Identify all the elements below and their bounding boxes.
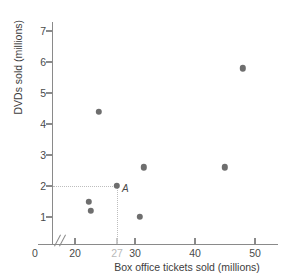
data-point-2 xyxy=(87,208,93,214)
y-tick-label-2: 2 xyxy=(26,181,46,192)
origin-label: 0 xyxy=(25,248,45,259)
x-tick-mark xyxy=(134,238,135,244)
guide-line-vertical xyxy=(117,186,118,243)
y-tick-label-6: 6 xyxy=(26,57,46,68)
y-tick-label-1: 1 xyxy=(26,212,46,223)
y-axis-title: DVDs sold (millions) xyxy=(13,0,24,137)
y-tick-mark xyxy=(46,185,52,186)
data-point-7 xyxy=(240,65,246,71)
data-point-0 xyxy=(96,108,102,114)
x-tick-mark xyxy=(194,238,195,244)
y-tick-mark xyxy=(46,92,52,93)
y-tick-mark xyxy=(46,216,52,217)
x-axis-title: Box office tickets sold (millions) xyxy=(92,262,282,273)
y-tick-label-3: 3 xyxy=(26,150,46,161)
x-tick-mark xyxy=(74,238,75,244)
scatter-plot: 0 7654321 2027304050 A DVDs sold (millio… xyxy=(0,0,282,278)
y-tick-mark xyxy=(46,154,52,155)
data-point-A xyxy=(114,183,120,189)
x-axis-break-icon xyxy=(53,234,69,246)
guide-line-horizontal xyxy=(53,186,117,187)
y-tick-mark xyxy=(46,30,52,31)
y-axis-line xyxy=(52,22,53,244)
data-point-5 xyxy=(137,214,143,220)
y-tick-label-5: 5 xyxy=(26,88,46,99)
y-tick-mark xyxy=(46,123,52,124)
data-point-1 xyxy=(86,198,92,204)
data-point-label-A: A xyxy=(122,184,129,194)
data-point-4 xyxy=(141,164,147,170)
x-tick-mark xyxy=(254,238,255,244)
y-tick-mark xyxy=(46,61,52,62)
data-point-6 xyxy=(222,164,228,170)
x-tick-label-20: 20 xyxy=(61,248,89,259)
y-tick-label-7: 7 xyxy=(26,26,46,37)
y-tick-label-4: 4 xyxy=(26,119,46,130)
x-tick-label-30: 30 xyxy=(121,248,149,259)
x-tick-label-40: 40 xyxy=(181,248,209,259)
x-tick-label-50: 50 xyxy=(241,248,269,259)
